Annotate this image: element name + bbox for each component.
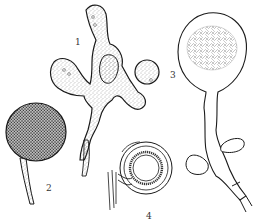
structure-3-vesicle <box>135 60 159 84</box>
structure-2-sporangium <box>6 103 66 204</box>
structure-4-ringed-spore <box>108 142 172 210</box>
label-1: 1 <box>75 38 81 47</box>
label-4: 4 <box>146 212 152 221</box>
figure-canvas: 1 2 3 4 <box>0 0 254 224</box>
label-2: 2 <box>46 184 52 193</box>
figure-illustration <box>0 0 254 224</box>
label-3: 3 <box>170 71 176 80</box>
structure-tall-sporangium <box>178 13 252 212</box>
